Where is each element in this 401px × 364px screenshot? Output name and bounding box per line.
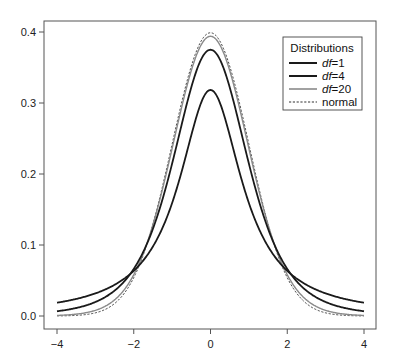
- legend-label-t_df20: df=20: [322, 83, 351, 95]
- legend-label-normal: normal: [322, 96, 357, 108]
- y-tick-label: 0.3: [21, 97, 36, 109]
- y-tick-label: 0.1: [21, 239, 36, 251]
- x-tick-label: 0: [207, 338, 213, 350]
- x-tick-label: −4: [51, 338, 64, 350]
- y-tick-label: 0.4: [21, 26, 36, 38]
- x-axis: −4−2024: [51, 329, 367, 350]
- y-tick-label: 0.0: [21, 310, 36, 322]
- legend-label-t_df4: df=4: [322, 70, 345, 82]
- x-tick-label: 2: [284, 338, 290, 350]
- t-distribution-chart: 0.00.10.20.30.4 −4−2024 Distributions df…: [0, 0, 401, 364]
- legend-title: Distributions: [290, 42, 354, 54]
- y-tick-label: 0.2: [21, 168, 36, 180]
- x-tick-label: −2: [127, 338, 140, 350]
- y-axis: 0.00.10.20.30.4: [21, 26, 44, 322]
- legend: Distributions df=1df=4df=20normal: [283, 37, 362, 110]
- legend-label-t_df1: df=1: [322, 57, 345, 69]
- x-tick-label: 4: [361, 338, 367, 350]
